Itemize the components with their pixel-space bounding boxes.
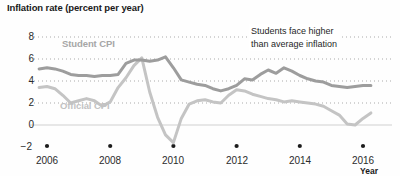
xaxis-tick-dots-group bbox=[45, 144, 365, 148]
ytick-label-6: 6 bbox=[12, 53, 34, 64]
series-label-student-cpi: Student CPI bbox=[62, 38, 115, 49]
ytick-label-0: 0 bbox=[12, 119, 34, 130]
xtick-label-2014: 2014 bbox=[278, 155, 322, 166]
xtick-label-2010: 2010 bbox=[151, 155, 195, 166]
ytick-label-2: 2 bbox=[12, 97, 34, 108]
xtick-label-2008: 2008 bbox=[88, 155, 132, 166]
xtick-label-2016: 2016 bbox=[341, 155, 385, 166]
xtick-label-2012: 2012 bbox=[215, 155, 259, 166]
ytick-label-4: 4 bbox=[12, 75, 34, 86]
ytick-label-minus2: −2 bbox=[10, 141, 32, 152]
xaxis-title: Year bbox=[360, 166, 378, 176]
annotation-line-2: than average inflation bbox=[251, 38, 337, 51]
annotation-callout: Students face higher than average inflat… bbox=[249, 24, 340, 51]
chart-root: Inflation rate (percent per year) 8 6 4 … bbox=[0, 0, 400, 176]
ytick-label-8: 8 bbox=[12, 31, 34, 42]
series-line-student-cpi bbox=[39, 57, 371, 91]
xtick-label-2006: 2006 bbox=[25, 155, 69, 166]
annotation-line-1: Students face higher bbox=[251, 25, 337, 38]
series-label-official-cpi: Official CPI bbox=[60, 100, 109, 111]
